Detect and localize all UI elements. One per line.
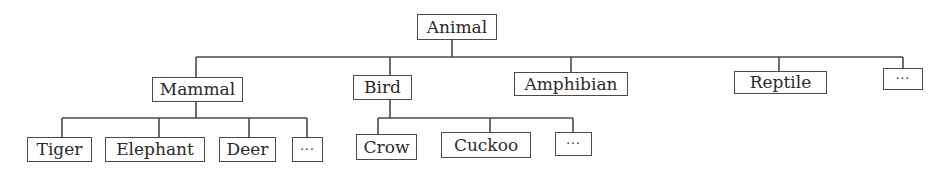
node-bird: Bird — [353, 75, 412, 100]
node-mammal: Mammal — [152, 77, 243, 102]
node-tiger: Tiger — [27, 137, 92, 162]
node-animal: Animal — [417, 14, 497, 40]
node-deer: Deer — [219, 137, 276, 162]
node-more-birds: ··· — [555, 132, 592, 156]
node-reptile: Reptile — [734, 71, 827, 94]
node-more-classes: ··· — [883, 68, 923, 90]
node-elephant: Elephant — [105, 137, 205, 162]
node-amphibian: Amphibian — [514, 72, 628, 96]
node-crow: Crow — [356, 134, 417, 160]
node-more-mammals: ··· — [292, 137, 323, 162]
node-cuckoo: Cuckoo — [441, 132, 531, 158]
